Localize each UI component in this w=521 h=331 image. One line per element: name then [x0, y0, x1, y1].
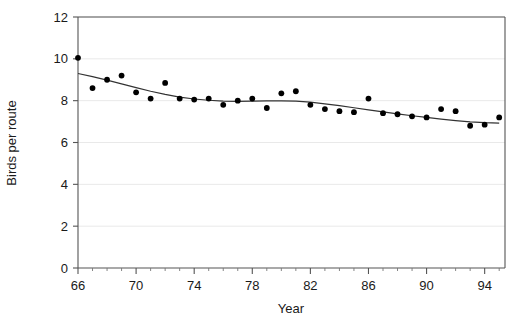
data-point: [177, 96, 183, 102]
x-tick-label: 70: [129, 278, 143, 293]
y-tick-label: 8: [61, 93, 68, 108]
data-point: [162, 80, 168, 86]
data-point: [438, 106, 444, 112]
y-tick-label: 0: [61, 261, 68, 276]
data-point: [496, 115, 502, 121]
data-point: [293, 88, 299, 94]
x-tick-label: 90: [419, 278, 433, 293]
trend-line: [78, 73, 499, 123]
data-point: [119, 73, 125, 79]
x-tick-label: 66: [71, 278, 85, 293]
x-tick-label: 86: [361, 278, 375, 293]
x-tick-label: 74: [187, 278, 201, 293]
gridlines-group: [78, 17, 505, 226]
data-point: [424, 115, 430, 121]
data-point: [307, 102, 313, 108]
y-tick-label: 12: [54, 10, 68, 25]
x-axis-title: Year: [278, 301, 305, 316]
data-point: [133, 89, 139, 95]
data-point: [409, 113, 415, 119]
data-point: [191, 97, 197, 103]
data-point: [90, 85, 96, 91]
y-tick-label: 4: [61, 177, 68, 192]
data-point: [148, 96, 154, 102]
data-point: [453, 108, 459, 114]
data-point: [322, 106, 328, 112]
y-axis-ticks: [73, 17, 78, 268]
scatter-chart: 6670747882869094 024681012 Year Birds pe…: [0, 0, 521, 331]
data-points: [75, 55, 502, 129]
data-point: [278, 90, 284, 96]
x-axis-ticks: [78, 268, 499, 274]
data-point: [380, 110, 386, 116]
data-point: [366, 96, 372, 102]
chart-figure: 6670747882869094 024681012 Year Birds pe…: [0, 0, 521, 331]
data-point: [104, 77, 110, 83]
data-point: [249, 96, 255, 102]
data-point: [337, 108, 343, 114]
y-tick-label: 6: [61, 135, 68, 150]
data-point: [235, 98, 241, 104]
x-tick-label: 94: [477, 278, 491, 293]
y-axis-title: Birds per route: [4, 100, 19, 185]
y-tick-label: 2: [61, 219, 68, 234]
data-point: [220, 102, 226, 108]
x-tick-label: 78: [245, 278, 259, 293]
y-axis-tick-labels: 024681012: [54, 10, 68, 276]
data-point: [206, 96, 212, 102]
y-tick-label: 10: [54, 51, 68, 66]
x-tick-label: 82: [303, 278, 317, 293]
data-point: [351, 109, 357, 115]
data-point: [395, 111, 401, 117]
data-point: [467, 123, 473, 129]
data-point: [75, 55, 81, 61]
trend-line-path: [78, 73, 499, 123]
data-point: [264, 105, 270, 111]
data-point: [482, 122, 488, 128]
x-axis-tick-labels: 6670747882869094: [71, 278, 492, 293]
